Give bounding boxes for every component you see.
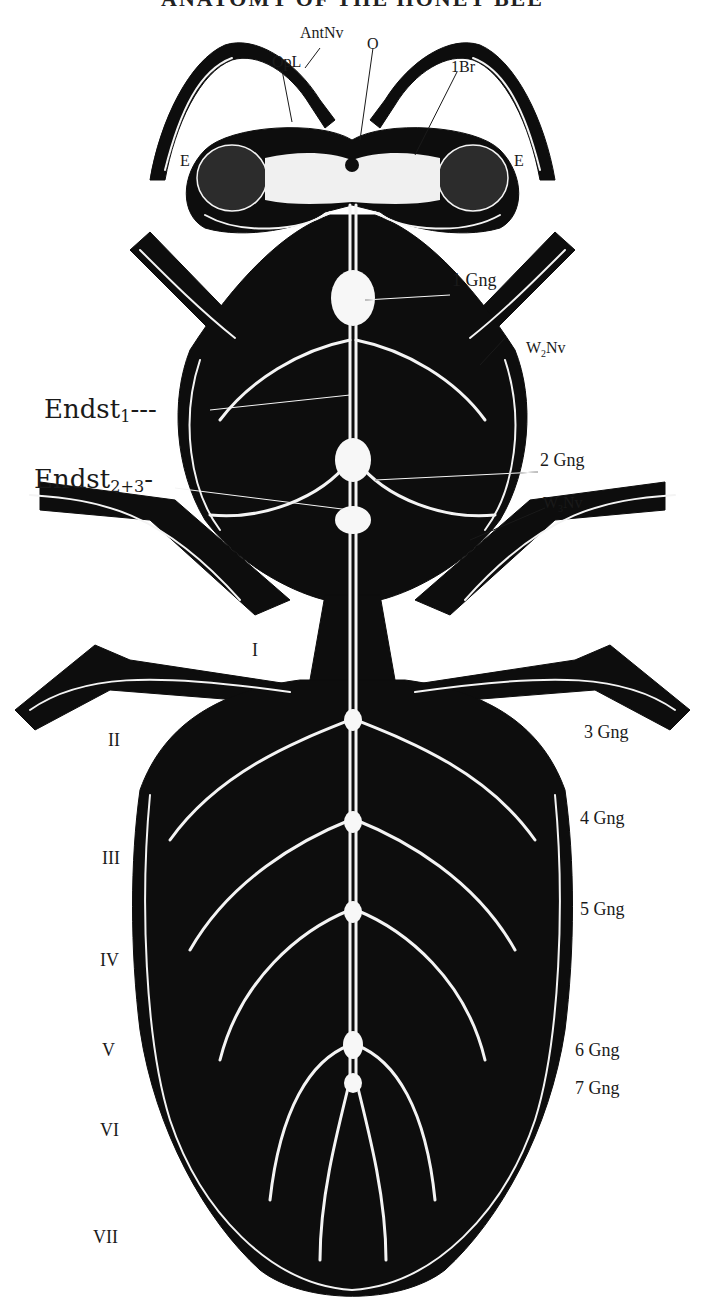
nervous-system-diagram: ANATOMY OF THE HONEY BEE xyxy=(0,0,705,1315)
ocelli xyxy=(345,158,359,172)
abdomen xyxy=(133,680,573,1296)
label-eye-left: E xyxy=(180,152,190,170)
ganglion-2-shape xyxy=(335,438,371,482)
segment-label-1: I xyxy=(252,640,258,661)
label-ganglion-7: 7 Gng xyxy=(575,1078,620,1099)
ganglion-4-shape xyxy=(344,811,362,833)
label-ganglion-4: 4 Gng xyxy=(580,808,625,829)
label-endosternite-1: Endst1--- xyxy=(44,394,157,426)
ganglion-6-shape xyxy=(343,1031,363,1059)
right-compound-eye xyxy=(438,145,508,211)
label-ganglion-6: 6 Gng xyxy=(575,1040,620,1061)
label-wing3-nerve: W3Nv xyxy=(543,494,583,514)
segment-label-4: IV xyxy=(100,950,119,971)
label-antennal-nerve: AntNv xyxy=(300,24,344,42)
left-compound-eye xyxy=(197,145,267,211)
segment-label-3: III xyxy=(102,848,120,869)
segment-label-6: VI xyxy=(100,1120,119,1141)
ganglion-1-shape xyxy=(331,270,375,326)
ganglion-7-shape xyxy=(344,1073,362,1093)
segment-label-7: VII xyxy=(93,1227,118,1248)
segment-label-2: II xyxy=(108,730,120,751)
bee-illustration xyxy=(0,0,705,1315)
label-wing2-nerve: W2Nv xyxy=(526,339,566,359)
label-ganglion-1: 1 Gng xyxy=(452,270,497,291)
label-endosternite-2-3: Endst2+3- xyxy=(34,464,153,496)
label-brain: 1Br xyxy=(451,58,475,76)
ganglion-3-shape xyxy=(344,709,362,731)
label-ganglion-5: 5 Gng xyxy=(580,899,625,920)
label-optic-lobe: OpL xyxy=(272,53,301,71)
label-ganglion-3: 3 Gng xyxy=(584,722,629,743)
segment-label-5: V xyxy=(102,1040,115,1061)
label-eye-right: E xyxy=(514,152,524,170)
petiole xyxy=(310,595,395,680)
label-ganglion-2: 2 Gng xyxy=(540,450,585,471)
label-ocellus: O xyxy=(367,35,379,53)
ganglion-5-shape xyxy=(344,901,362,923)
